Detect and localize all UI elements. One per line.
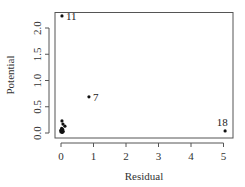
data-point bbox=[63, 125, 66, 128]
x-tick-label: 5 bbox=[221, 150, 227, 162]
y-axis-title: Potential bbox=[4, 55, 16, 94]
y-tick-label: 2.0 bbox=[31, 21, 43, 35]
data-point bbox=[60, 14, 63, 17]
y-tick-label: 0.0 bbox=[31, 126, 43, 140]
data-point bbox=[224, 129, 227, 132]
y-tick-label: 1.0 bbox=[31, 73, 43, 87]
y-tick-label: 1.5 bbox=[31, 47, 43, 61]
x-axis: 012345 bbox=[58, 143, 227, 162]
data-points: 11718 bbox=[59, 10, 228, 134]
point-label: 11 bbox=[66, 10, 77, 22]
point-label: 18 bbox=[217, 116, 229, 128]
data-point bbox=[60, 119, 63, 122]
y-axis: 0.00.51.01.52.0 bbox=[31, 21, 49, 140]
plot-frame bbox=[55, 13, 233, 139]
data-point bbox=[61, 131, 64, 134]
x-tick-label: 1 bbox=[91, 150, 97, 162]
x-tick-label: 2 bbox=[123, 150, 129, 162]
data-point bbox=[87, 95, 90, 98]
x-axis-title: Residual bbox=[125, 170, 164, 182]
point-label: 7 bbox=[93, 91, 99, 103]
y-tick-label: 0.5 bbox=[31, 99, 43, 113]
x-tick-label: 3 bbox=[156, 150, 162, 162]
x-tick-label: 4 bbox=[188, 150, 194, 162]
x-tick-label: 0 bbox=[58, 150, 64, 162]
scatter-chart: 012345 0.00.51.01.52.0 11718 Residual Po… bbox=[0, 0, 245, 187]
